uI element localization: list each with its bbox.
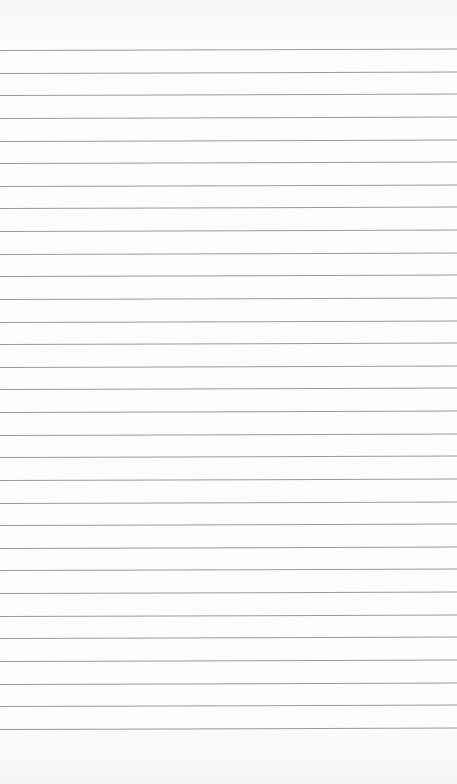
ruled-line (0, 230, 457, 232)
ruled-line (0, 207, 457, 209)
ruled-line (0, 524, 457, 526)
ruled-line (0, 297, 457, 299)
ruled-line (0, 660, 457, 662)
ruled-line (0, 71, 457, 73)
ruled-line (0, 614, 457, 616)
ruled-line (0, 682, 457, 684)
ruled-line (0, 479, 457, 481)
ruled-line (0, 388, 457, 390)
ruled-line (0, 162, 457, 164)
ruled-line (0, 411, 457, 413)
ruled-line (0, 49, 457, 51)
ruled-line (0, 252, 457, 254)
ruled-line (0, 139, 457, 141)
ruled-line (0, 320, 457, 322)
ruled-line (0, 184, 457, 186)
lined-paper-sheet (0, 0, 457, 784)
ruled-line (0, 275, 457, 277)
ruled-line (0, 705, 457, 707)
ruled-line (0, 592, 457, 594)
ruled-line (0, 94, 457, 96)
ruled-line (0, 365, 457, 367)
ruled-line (0, 501, 457, 503)
ruled-line (0, 456, 457, 458)
ruled-line (0, 116, 457, 118)
ruled-line (0, 546, 457, 548)
ruled-line (0, 343, 457, 345)
ruled-line (0, 433, 457, 435)
ruled-line (0, 637, 457, 639)
ruled-line (0, 727, 457, 729)
ruled-line (0, 569, 457, 571)
